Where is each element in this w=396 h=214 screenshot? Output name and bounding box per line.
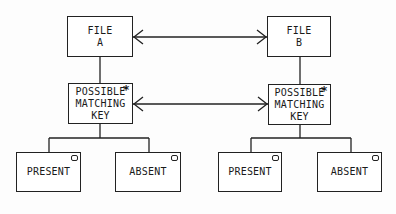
node-label: ABSENT	[331, 166, 368, 178]
node-label: FILE A	[88, 25, 113, 49]
selection-marker-icon	[71, 155, 78, 161]
node-file-b: FILE B	[267, 16, 331, 57]
node-absent-a: ABSENT	[115, 152, 181, 192]
node-label: PRESENT	[27, 166, 71, 178]
node-label: FILE B	[287, 25, 312, 49]
node-possible-matching-key-a: POSSIBLE MATCHING KEY *	[68, 83, 133, 124]
node-absent-b: ABSENT	[317, 152, 382, 192]
node-label: POSSIBLE MATCHING KEY	[76, 86, 126, 122]
iteration-marker-icon: *	[123, 84, 130, 96]
node-label: POSSIBLE MATCHING KEY	[275, 87, 325, 123]
node-label: PRESENT	[228, 166, 272, 178]
node-present-b: PRESENT	[218, 152, 282, 192]
selection-marker-icon	[372, 155, 379, 161]
iteration-marker-icon: *	[321, 85, 328, 97]
node-label: ABSENT	[129, 166, 166, 178]
selection-marker-icon	[171, 155, 178, 161]
node-possible-matching-key-b: POSSIBLE MATCHING KEY *	[268, 84, 331, 125]
selection-marker-icon	[272, 155, 279, 161]
node-file-a: FILE A	[67, 16, 133, 57]
node-present-a: PRESENT	[16, 152, 81, 192]
